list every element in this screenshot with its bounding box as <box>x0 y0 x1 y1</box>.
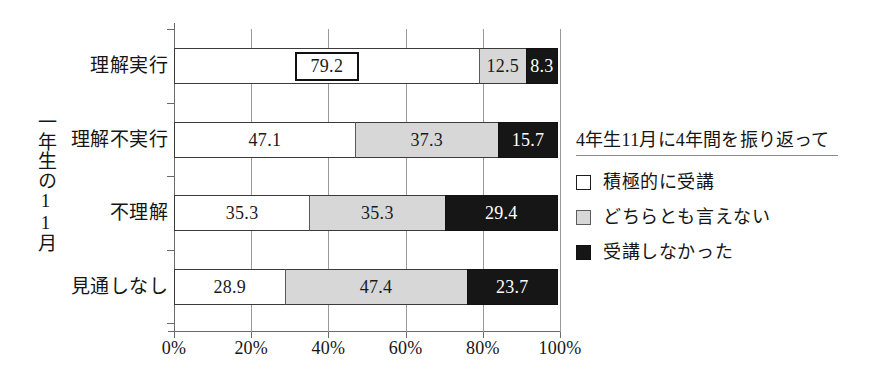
legend-item[interactable]: 積極的に受講 <box>576 173 856 191</box>
legend: 4年生11月に4年間を振り返って 積極的に受講どちらとも言えない受講しなかった <box>576 128 856 261</box>
x-axis-tick-label: 60% <box>371 338 441 359</box>
plot-area: 79.212.58.347.137.315.735.335.329.428.94… <box>174 29 560 332</box>
bar-value-label: 15.7 <box>512 130 545 151</box>
bar-segment[interactable]: 12.5 <box>479 48 527 84</box>
bar-row[interactable]: 47.137.315.7 <box>174 122 560 158</box>
legend-label: 受講しなかった <box>603 243 733 261</box>
stacked-bar-chart: 一年生の11月 理解実行理解不実行不理解見通しなし 79.212.58.347.… <box>0 0 872 389</box>
y-axis-category-label: 理解不実行 <box>8 130 168 150</box>
bar-value-label: 47.1 <box>249 130 282 151</box>
y-axis-category-labels: 理解実行理解不実行不理解見通しなし <box>0 0 168 389</box>
bar-segment[interactable]: 35.3 <box>174 195 310 231</box>
bar-value-label: 79.2 <box>295 52 360 81</box>
bar-value-label: 29.4 <box>485 203 518 224</box>
bar-segment[interactable]: 47.1 <box>174 122 356 158</box>
x-axis-tick-label: 0% <box>139 338 209 359</box>
y-axis-tick <box>167 103 174 104</box>
bar-value-label: 47.4 <box>360 277 393 298</box>
bar-segment[interactable]: 79.2 <box>174 48 480 84</box>
bar-segment[interactable]: 35.3 <box>309 195 445 231</box>
bar-segment[interactable]: 28.9 <box>174 269 286 305</box>
bar-value-label: 37.3 <box>410 130 443 151</box>
bar-segment[interactable]: 37.3 <box>355 122 499 158</box>
legend-items: 積極的に受講どちらとも言えない受講しなかった <box>576 173 856 261</box>
y-axis-tick <box>167 323 174 324</box>
bar-segment[interactable]: 15.7 <box>498 122 559 158</box>
bar-value-label: 23.7 <box>496 277 529 298</box>
y-axis-tick <box>167 176 174 177</box>
bar-segment[interactable]: 23.7 <box>467 269 558 305</box>
bar-value-label: 35.3 <box>361 203 394 224</box>
bar-segment[interactable]: 47.4 <box>285 269 468 305</box>
legend-swatch-icon <box>576 245 591 260</box>
x-axis-tick-label: 80% <box>448 338 518 359</box>
x-axis-tick-label: 40% <box>293 338 363 359</box>
bar-row[interactable]: 35.335.329.4 <box>174 195 560 231</box>
gridline <box>560 29 561 332</box>
legend-item[interactable]: どちらとも言えない <box>576 208 856 226</box>
bar-segment[interactable]: 8.3 <box>526 48 558 84</box>
legend-item[interactable]: 受講しなかった <box>576 243 856 261</box>
bar-row[interactable]: 79.212.58.3 <box>174 48 560 84</box>
legend-label: 積極的に受講 <box>603 173 715 191</box>
legend-label: どちらとも言えない <box>603 208 770 226</box>
legend-swatch-icon <box>576 210 591 225</box>
bar-value-label: 8.3 <box>530 56 553 77</box>
legend-title: 4年生11月に4年間を振り返って <box>576 128 838 156</box>
bar-value-label: 12.5 <box>486 56 519 77</box>
x-axis-tick-label: 20% <box>216 338 286 359</box>
legend-swatch-icon <box>576 175 591 190</box>
bar-value-label: 28.9 <box>213 277 246 298</box>
bar-value-label: 35.3 <box>226 203 259 224</box>
bar-segment[interactable]: 29.4 <box>445 195 558 231</box>
bar-row[interactable]: 28.947.423.7 <box>174 269 560 305</box>
y-axis-category-label: 見通しなし <box>8 277 168 297</box>
x-axis-tick-label: 100% <box>525 338 595 359</box>
x-axis-line <box>168 331 560 332</box>
y-axis-tick <box>167 29 174 30</box>
y-axis-category-label: 理解実行 <box>8 56 168 76</box>
y-axis-tick <box>167 250 174 251</box>
y-axis-category-label: 不理解 <box>8 203 168 223</box>
